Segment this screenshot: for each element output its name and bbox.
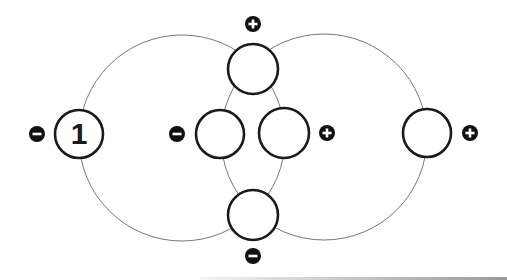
plus-icon <box>462 125 478 141</box>
node-1[interactable]: 1 <box>55 110 103 158</box>
minus-icon <box>29 126 45 142</box>
node-inner-right[interactable] <box>259 108 309 158</box>
node-circle <box>259 108 309 158</box>
node-inner-left[interactable] <box>196 110 244 158</box>
node-bottom[interactable] <box>228 190 278 240</box>
node-circle <box>228 190 278 240</box>
minus-icon <box>169 126 185 142</box>
node-circle <box>403 109 451 157</box>
node-circle <box>228 44 278 94</box>
node-circle <box>196 110 244 158</box>
nodes-group: 1 <box>55 44 451 240</box>
node-label: 1 <box>71 117 88 150</box>
plus-icon <box>319 125 335 141</box>
circuit-diagram: 1 <box>0 0 507 280</box>
minus-icon <box>245 248 261 264</box>
node-top[interactable] <box>228 44 278 94</box>
plus-icon <box>245 16 261 32</box>
node-right[interactable] <box>403 109 451 157</box>
